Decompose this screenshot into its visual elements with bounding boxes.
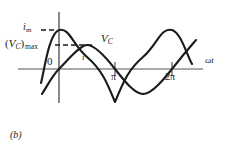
- origin-label: 0: [47, 56, 53, 67]
- x-tick-label-2pi: 2π: [165, 72, 175, 82]
- figure-container: im (VC)max VC i 0 π 2π ωt (b): [0, 0, 229, 151]
- x-tick-label-pi: π: [111, 72, 116, 82]
- label-i-max-subscript: m: [26, 26, 31, 34]
- curve-label-vc: VC: [101, 33, 113, 46]
- curve-current-i: [41, 30, 192, 102]
- x-axis-label: ωt: [205, 56, 214, 65]
- curve-voltage-vc: [42, 40, 196, 94]
- curve-label-vc-subscript: C: [108, 37, 113, 46]
- label-i-max: im: [23, 22, 32, 34]
- label-vc-max: (VC)max: [5, 38, 38, 51]
- figure-caption: (b): [10, 130, 22, 140]
- curve-label-vc-symbol: V: [101, 32, 108, 44]
- label-vc-max-close-paren: ): [20, 37, 24, 49]
- curve-label-i: i: [82, 53, 85, 62]
- label-vc-max-max: max: [25, 42, 38, 51]
